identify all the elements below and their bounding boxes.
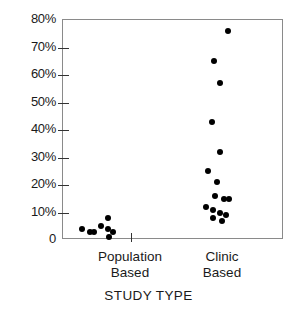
data-point	[223, 212, 229, 218]
y-axis-tick-label: 40%	[31, 122, 56, 135]
dot-plot-figure: 010%20%30%40%50%60%70%80% PopulationBase…	[0, 0, 297, 314]
y-axis-tick-label: 70%	[31, 40, 56, 53]
data-point	[219, 218, 225, 224]
y-axis-tick-mark	[58, 185, 69, 186]
y-axis-tick-label: 10%	[31, 205, 56, 218]
y-axis-tick-label: 20%	[31, 177, 56, 190]
data-point	[91, 229, 97, 235]
x-axis-group-label: ClinicBased	[162, 249, 282, 280]
data-point	[217, 149, 223, 155]
y-axis-tick-labels: 010%20%30%40%50%60%70%80%	[0, 0, 56, 314]
y-axis-tick-mark	[58, 158, 69, 159]
y-axis-tick-mark	[58, 103, 69, 104]
data-point	[79, 226, 85, 232]
data-point	[98, 223, 104, 229]
data-point	[212, 193, 218, 199]
data-point	[106, 234, 112, 240]
x-axis-title: STUDY TYPE	[0, 288, 297, 303]
data-point	[211, 58, 217, 64]
data-point	[217, 80, 223, 86]
x-axis-tick-mark	[131, 233, 132, 242]
data-point	[226, 196, 232, 202]
y-axis-tick-label: 80%	[31, 12, 56, 25]
data-point	[209, 119, 215, 125]
y-axis-tick-mark	[58, 130, 69, 131]
y-axis-tick-label: 60%	[31, 67, 56, 80]
y-axis-tick-label: 0	[49, 232, 56, 245]
data-point	[205, 168, 211, 174]
y-axis-tick-mark	[58, 48, 69, 49]
y-axis-tick-mark	[58, 75, 69, 76]
group-label-line-1: Clinic	[162, 249, 282, 265]
y-axis-tick-mark	[58, 213, 69, 214]
group-label-line-2: Based	[162, 265, 282, 281]
data-point	[110, 229, 116, 235]
data-point	[225, 28, 231, 34]
data-point	[210, 215, 216, 221]
data-point	[105, 215, 111, 221]
data-point	[210, 207, 216, 213]
y-axis-tick-label: 50%	[31, 95, 56, 108]
data-point	[203, 204, 209, 210]
y-axis-tick-label: 30%	[31, 150, 56, 163]
data-point	[214, 179, 220, 185]
plot-area	[62, 19, 283, 239]
